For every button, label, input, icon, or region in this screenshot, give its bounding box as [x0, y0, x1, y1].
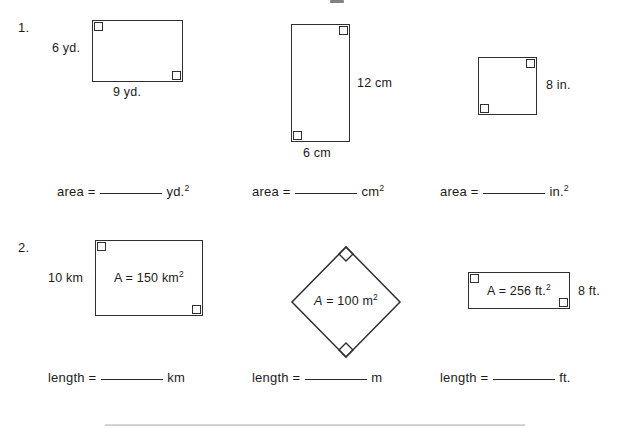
figure-1c [478, 57, 537, 115]
figure-1a [92, 20, 183, 82]
answer-line-1c: area =in.2 [440, 184, 569, 199]
answer-unit-exponent: 2 [564, 183, 569, 193]
answer-blank-1c[interactable] [483, 193, 545, 194]
area-value: = 256 ft. [495, 284, 546, 298]
area-exponent: 2 [546, 282, 551, 292]
right-angle-mark-icon [97, 242, 106, 251]
answer-prompt: length = [440, 370, 488, 385]
figure-1b-right-label: 12 cm [357, 76, 392, 90]
right-angle-mark-icon [480, 104, 489, 113]
answer-unit-exponent: 2 [379, 183, 384, 193]
answer-prompt: area = [440, 184, 478, 199]
square-1c [478, 57, 537, 115]
figure-2b-area-text: A = 100 m2 [289, 294, 403, 308]
answer-line-1a: area =yd.2 [57, 184, 190, 199]
answer-prompt: length = [48, 370, 96, 385]
answer-unit: m [371, 370, 382, 385]
right-angle-mark-icon [526, 59, 535, 68]
answer-line-2a: length =km [48, 370, 185, 385]
right-angle-mark-icon [293, 131, 302, 140]
figure-1b [291, 24, 350, 142]
rectangle-1a [92, 20, 183, 82]
answer-line-1b: area =cm2 [252, 184, 384, 199]
figure-2a: A = 150 km2 [95, 240, 203, 316]
answer-unit: km [167, 370, 185, 385]
problem-number-1: 1. [18, 20, 29, 35]
figure-1c-right-label: 8 in. [546, 78, 571, 92]
area-value: = 150 km [122, 271, 179, 285]
figure-1b-bottom-label: 6 cm [303, 146, 331, 160]
answer-blank-2c[interactable] [493, 379, 555, 380]
cropped-title-artifact [330, 0, 344, 3]
answer-unit: cm [361, 184, 379, 199]
area-variable: A [314, 294, 323, 308]
area-exponent: 2 [373, 292, 378, 302]
figure-2c: A = 256 ft.2 [468, 272, 570, 309]
figure-1a-bottom-label: 9 yd. [113, 85, 141, 99]
figure-1a-left-label: 6 yd. [52, 41, 80, 55]
rectangle-2a: A = 150 km2 [95, 240, 203, 316]
rectangle-2c: A = 256 ft.2 [468, 272, 570, 309]
right-angle-mark-icon [559, 298, 568, 307]
page-bottom-rule [105, 424, 525, 426]
answer-line-2b: length =m [252, 370, 382, 385]
answer-blank-1b[interactable] [295, 193, 357, 194]
answer-unit: ft. [559, 370, 570, 385]
figure-2a-area-text: A = 150 km2 [96, 271, 202, 285]
figure-2c-right-label: 8 ft. [578, 284, 600, 298]
figure-2b: A = 100 m2 [289, 244, 403, 360]
answer-prompt: area = [252, 184, 290, 199]
worksheet-page: 1. 6 yd. 9 yd. area =yd.2 12 cm 6 cm are… [0, 0, 622, 429]
rectangle-1b [291, 24, 350, 142]
right-angle-mark-icon [470, 274, 479, 283]
right-angle-mark-icon [339, 26, 348, 35]
answer-line-2c: length =ft. [440, 370, 571, 385]
answer-blank-1a[interactable] [100, 193, 162, 194]
answer-prompt: length = [252, 370, 300, 385]
answer-prompt: area = [57, 184, 95, 199]
area-variable: A [487, 284, 495, 298]
area-variable: A [114, 271, 122, 285]
right-angle-mark-icon [94, 22, 103, 31]
answer-unit: yd. [166, 184, 184, 199]
answer-blank-2b[interactable] [305, 379, 367, 380]
answer-blank-2a[interactable] [101, 379, 163, 380]
right-angle-mark-icon [192, 305, 201, 314]
area-exponent: 2 [179, 269, 184, 279]
answer-unit-exponent: 2 [184, 183, 189, 193]
problem-number-2: 2. [18, 240, 29, 255]
right-angle-mark-icon [172, 71, 181, 80]
figure-2c-area-text: A = 256 ft.2 [469, 284, 569, 298]
answer-unit: in. [549, 184, 563, 199]
figure-2a-left-label: 10 km [48, 271, 83, 285]
area-value: = 100 m [323, 294, 374, 308]
